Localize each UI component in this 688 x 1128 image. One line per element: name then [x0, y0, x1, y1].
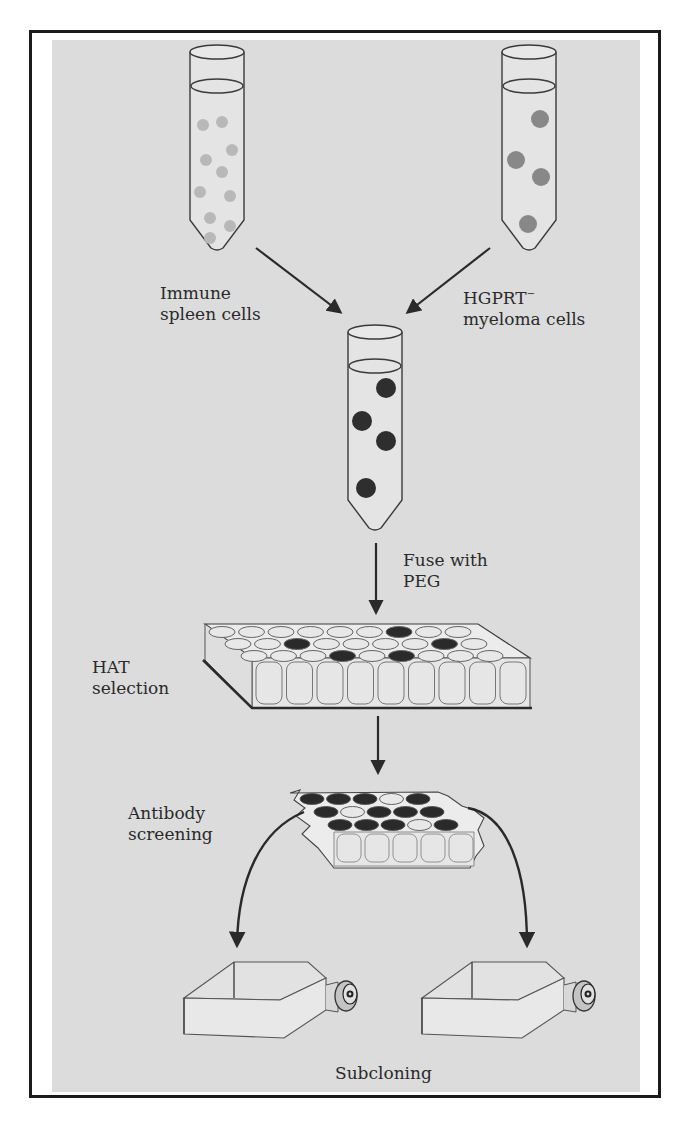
- spleen-tube: [190, 45, 244, 250]
- well-empty: [327, 627, 353, 638]
- well-positive: [434, 820, 458, 831]
- cell: [224, 190, 236, 202]
- hybridoma-diagram: [0, 0, 688, 1128]
- well-empty: [314, 639, 340, 650]
- label-fuse-line2: PEG: [403, 571, 488, 592]
- cell: [507, 151, 525, 169]
- well-empty: [341, 807, 365, 818]
- label-spleen-line2: spleen cells: [160, 304, 261, 325]
- well-empty: [209, 627, 235, 638]
- label-myeloma-line2: myeloma cells: [463, 309, 585, 330]
- well-positive: [328, 820, 352, 831]
- well-positive: [330, 651, 356, 662]
- well-positive: [367, 807, 391, 818]
- cell: [204, 232, 216, 244]
- fusion-tube: [348, 325, 402, 530]
- label-hat-line1: HAT: [92, 657, 169, 678]
- well-empty: [357, 627, 383, 638]
- cell: [376, 378, 396, 398]
- well-positive: [394, 807, 418, 818]
- label-fuse-line1: Fuse with: [403, 550, 488, 571]
- well-empty: [477, 651, 503, 662]
- well-empty: [402, 639, 428, 650]
- label-myeloma-gene: HGPRT: [463, 288, 527, 308]
- well-empty: [343, 639, 369, 650]
- well-positive: [327, 794, 351, 805]
- well-positive: [420, 807, 444, 818]
- cell: [197, 119, 209, 131]
- cell: [376, 431, 396, 451]
- well-positive: [355, 820, 379, 831]
- cell: [200, 154, 212, 166]
- label-myeloma-superscript: −: [527, 288, 535, 299]
- hat-selection-plate: [203, 624, 532, 708]
- label-myeloma-line1: HGPRT−: [463, 283, 585, 309]
- well-empty: [255, 639, 281, 650]
- label-screening-line2: screening: [128, 824, 213, 845]
- well-positive: [432, 639, 458, 650]
- cell: [224, 220, 236, 232]
- cell: [352, 411, 372, 431]
- cell: [204, 212, 216, 224]
- subclone-flask-right: [422, 962, 595, 1038]
- label-spleen-cells: Immune spleen cells: [160, 283, 261, 325]
- well-empty: [225, 639, 251, 650]
- well-empty: [373, 639, 399, 650]
- cell: [216, 166, 228, 178]
- label-subcloning-line1: Subcloning: [335, 1063, 432, 1084]
- well-positive: [284, 639, 310, 650]
- cell: [356, 478, 376, 498]
- label-spleen-line1: Immune: [160, 283, 261, 304]
- flasks-layer: [184, 962, 595, 1038]
- arrow-spleen-to-fusion: [256, 248, 340, 312]
- label-myeloma-cells: HGPRT− myeloma cells: [463, 283, 585, 330]
- well-empty: [461, 639, 487, 650]
- well-empty: [408, 820, 432, 831]
- well-empty: [418, 651, 444, 662]
- well-positive: [381, 820, 405, 831]
- well-empty: [380, 794, 404, 805]
- label-screening-line1: Antibody: [128, 803, 213, 824]
- well-empty: [268, 627, 294, 638]
- well-positive: [353, 794, 377, 805]
- well-empty: [241, 651, 267, 662]
- well-empty: [239, 627, 265, 638]
- cell: [216, 116, 228, 128]
- label-hat-selection: HAT selection: [92, 657, 169, 699]
- well-positive: [386, 627, 412, 638]
- well-empty: [300, 651, 326, 662]
- cell: [519, 215, 537, 233]
- well-empty: [416, 627, 442, 638]
- well-empty: [271, 651, 297, 662]
- well-positive: [389, 651, 415, 662]
- label-hat-line2: selection: [92, 678, 169, 699]
- label-antibody-screening: Antibody screening: [128, 803, 213, 845]
- cell: [531, 110, 549, 128]
- antibody-screening-plate: [290, 790, 484, 868]
- well-empty: [359, 651, 385, 662]
- cell: [532, 168, 550, 186]
- subclone-flask-left: [184, 962, 357, 1038]
- label-fuse-with-peg: Fuse with PEG: [403, 550, 488, 592]
- label-subcloning: Subcloning: [335, 1063, 432, 1084]
- well-empty: [298, 627, 324, 638]
- well-empty: [448, 651, 474, 662]
- well-positive: [314, 807, 338, 818]
- cell: [194, 186, 206, 198]
- well-empty: [445, 627, 471, 638]
- arrow-screening-to-left-flask: [237, 812, 304, 945]
- well-positive: [406, 794, 430, 805]
- cell: [226, 144, 238, 156]
- myeloma-tube: [502, 45, 556, 250]
- well-positive: [300, 794, 324, 805]
